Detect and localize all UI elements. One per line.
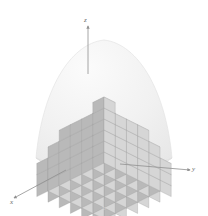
figure-caption: b (0, 205, 208, 211)
figure-3d-riemann-box-solid: z y x b (0, 0, 208, 216)
axis-label-z: z (84, 17, 87, 24)
scene-3d-canvas (0, 0, 208, 216)
axis-label-y: y (192, 166, 195, 173)
